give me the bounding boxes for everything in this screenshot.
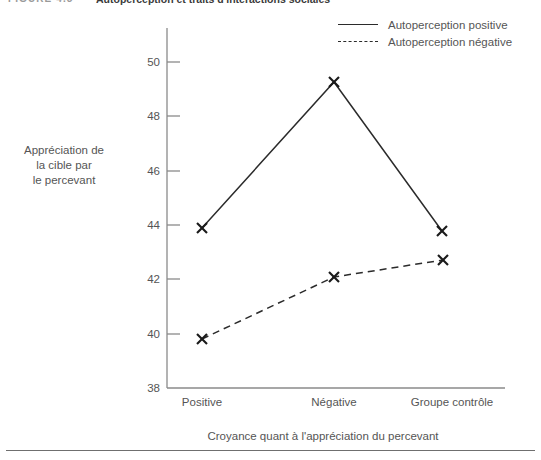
data-point-marker-x xyxy=(197,334,207,344)
y-tick-label-42: 42 xyxy=(147,273,160,285)
y-tick-label-48: 48 xyxy=(147,110,160,122)
x-category-label-positive: Positive xyxy=(182,396,222,408)
y-axis-tick-labels: 50 48 46 44 42 40 38 xyxy=(147,56,160,394)
data-point-marker-x xyxy=(197,223,207,233)
x-category-label-negative: Négative xyxy=(311,396,356,408)
data-point-marker-x xyxy=(329,77,339,87)
y-axis-ticks xyxy=(167,62,180,334)
series-line-autoperception-negative xyxy=(202,260,443,339)
series-markers-autoperception-positive xyxy=(197,77,447,236)
x-category-label-groupe-controle: Groupe contrôle xyxy=(411,396,493,408)
series-markers-autoperception-negative xyxy=(197,255,448,344)
line-chart-plot-area: 50 48 46 44 42 40 38 xyxy=(0,0,541,460)
y-tick-label-38: 38 xyxy=(147,382,160,394)
y-tick-label-40: 40 xyxy=(147,328,160,340)
y-tick-label-50: 50 xyxy=(147,56,160,68)
chart-svg: 50 48 46 44 42 40 38 xyxy=(0,0,541,460)
x-axis-category-labels: Positive Négative Groupe contrôle xyxy=(182,396,493,408)
data-point-marker-x xyxy=(437,226,447,236)
footer-divider xyxy=(6,450,535,451)
x-axis-title: Croyance quant à l'appréciation du perce… xyxy=(167,430,479,442)
series-line-autoperception-positive xyxy=(202,82,442,231)
y-tick-label-46: 46 xyxy=(147,165,160,177)
y-tick-label-44: 44 xyxy=(147,219,160,231)
